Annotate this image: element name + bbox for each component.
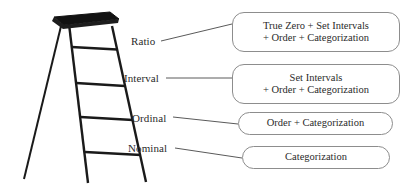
- level-label-interval: Interval: [124, 72, 159, 84]
- level-label-nominal: Nominal: [128, 142, 167, 154]
- level-label-ratio: Ratio: [131, 35, 155, 47]
- ladder-rail-right: [112, 26, 146, 182]
- ladder-rung-3: [81, 117, 134, 120]
- description-line: Set Intervals: [290, 72, 343, 85]
- description-line: + Order + Categorization: [263, 32, 369, 45]
- diagram-canvas: Ratio Interval Ordinal Nominal True Zero…: [0, 0, 404, 186]
- ladder-rung-2: [76, 83, 125, 86]
- connector-ratio: [161, 24, 232, 41]
- ladder-back-leg: [24, 22, 62, 179]
- description-box-interval: Set Intervals + Order + Categorization: [232, 64, 400, 104]
- connector-nominal: [175, 148, 242, 158]
- level-label-ordinal: Ordinal: [132, 112, 166, 124]
- description-line: Order + Categorization: [267, 117, 364, 130]
- description-line: True Zero + Set Intervals: [263, 20, 369, 33]
- description-line: Categorization: [285, 151, 347, 164]
- description-box-nominal: Categorization: [242, 146, 390, 169]
- ladder-rung-1: [72, 47, 118, 50]
- description-box-ordinal: Order + Categorization: [238, 112, 393, 135]
- description-line: + Order + Categorization: [263, 84, 369, 97]
- connector-ordinal: [173, 117, 238, 124]
- description-box-ratio: True Zero + Set Intervals + Order + Cate…: [232, 12, 400, 52]
